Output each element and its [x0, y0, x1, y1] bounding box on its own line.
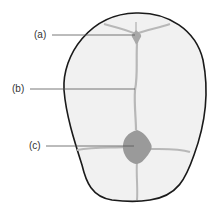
label-b: (b) — [12, 84, 24, 94]
occipital-suture — [137, 162, 138, 200]
label-c: (c) — [29, 141, 41, 151]
label-a: (a) — [34, 30, 46, 40]
skull-diagram — [0, 0, 216, 209]
